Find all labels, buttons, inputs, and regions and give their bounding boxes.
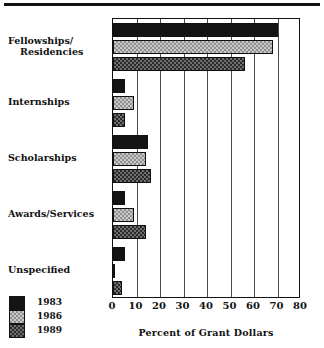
legend-swatch [9,324,25,338]
legend-swatch [9,310,25,324]
legend-item: 1986 [9,310,99,324]
category-label-line1: Awards/Services [8,208,94,219]
category-axis-labels: Fellowships/ResidenciesInternshipsSchola… [0,18,324,298]
category-label-line1: Fellowships/ [8,35,73,46]
legend-label: 1986 [37,311,62,321]
x-tick-80: 80 [293,300,307,311]
category-label: Scholarships [8,152,108,163]
x-tick-50: 50 [223,300,237,311]
x-tick-40: 40 [199,300,213,311]
legend-swatch [9,296,25,310]
category-label: Internships [8,96,108,107]
x-tick-30: 30 [176,300,190,311]
x-axis-tick-labels: 01020304050607080 [112,300,300,316]
x-tick-70: 70 [270,300,284,311]
category-label: Awards/Services [8,208,108,219]
category-label-line1: Scholarships [8,152,77,163]
header-rule [4,3,320,6]
legend-label: 1983 [37,297,62,307]
category-label-line1: Unspecified [8,264,70,275]
x-tick-0: 0 [109,300,116,311]
chart-figure: Fellowships/ResidenciesInternshipsSchola… [0,0,324,348]
x-tick-60: 60 [246,300,260,311]
x-axis-title: Percent of Grant Dollars [112,327,300,338]
x-tick-20: 20 [152,300,166,311]
legend-label: 1989 [37,325,62,335]
category-label: Unspecified [8,264,108,275]
category-label-line2: Residencies [8,46,108,57]
legend-item: 1983 [9,296,99,310]
category-label: Fellowships/Residencies [8,35,108,58]
x-tick-10: 10 [129,300,143,311]
chart-legend: 198319861989 [9,296,99,338]
category-label-line1: Internships [8,96,70,107]
legend-item: 1989 [9,324,99,338]
